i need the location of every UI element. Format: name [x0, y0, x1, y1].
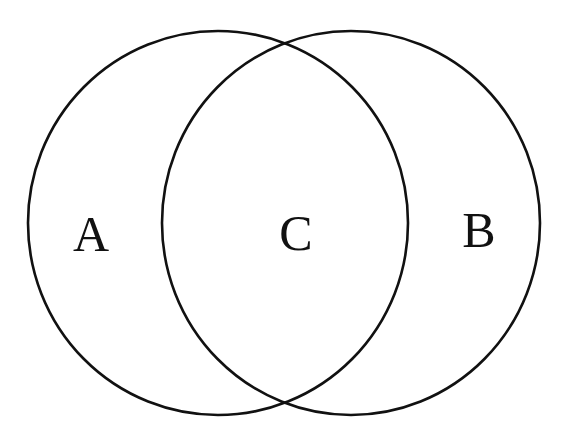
region-label-c: C	[279, 205, 312, 261]
region-label-a: A	[73, 206, 109, 262]
venn-diagram: A C B	[0, 0, 565, 438]
region-label-b: B	[462, 202, 495, 258]
